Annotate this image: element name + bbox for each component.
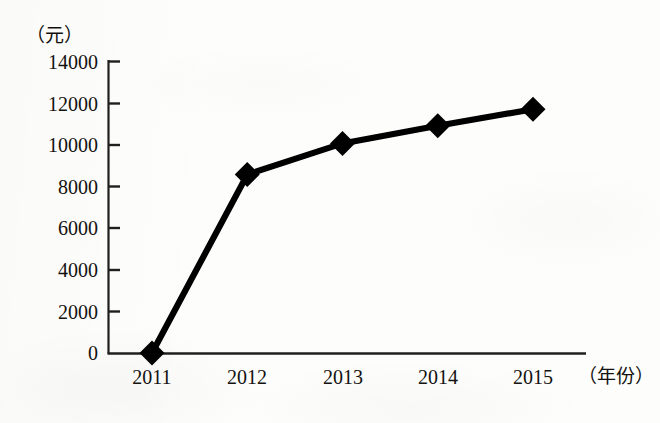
x-axis-tick-labels: 2011 2012 2013 2014 2015 （年份）	[0, 0, 660, 423]
x-axis-unit-label: （年份）	[578, 367, 654, 386]
x-tick-label-2015: 2015	[473, 367, 593, 387]
line-chart: （元） 14000 12000 10000 8000 6000 4000 200…	[0, 0, 660, 423]
